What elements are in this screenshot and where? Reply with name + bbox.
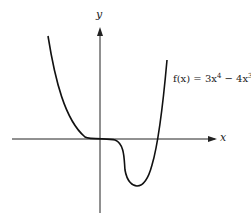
y-axis-arrow-icon — [97, 27, 103, 36]
exponent-3: 3 — [248, 72, 251, 80]
function-label-part: − 4x — [221, 73, 248, 84]
function-label-part: f(x) = 3x — [173, 73, 217, 84]
function-plot — [0, 0, 251, 223]
x-axis-arrow-icon — [208, 136, 217, 142]
function-curve — [48, 36, 167, 186]
function-label: f(x) = 3x4 − 4x3 — [173, 72, 251, 84]
x-axis-label: x — [220, 131, 226, 144]
y-axis-label: y — [96, 8, 102, 21]
